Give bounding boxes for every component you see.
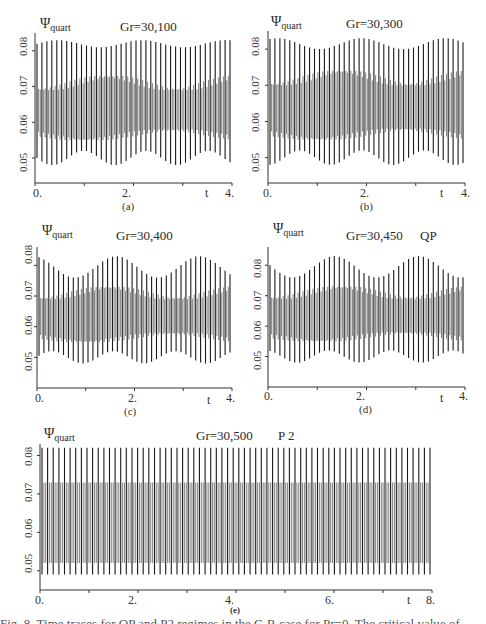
y-tick: 0.07 [251, 291, 263, 310]
panel-a: Ψquart Gr=30,100 0.05 0.06 0.07 0.08 0. … [0, 0, 243, 215]
y-tick: 0.07 [22, 483, 34, 502]
x-tick: 2. [128, 593, 137, 608]
chart-title: Gr=30,100 [120, 19, 177, 35]
panel-sublabel: (e) [230, 605, 240, 615]
chart-title: Gr=30,300 [346, 16, 403, 32]
y-axis-label: Ψquart [44, 426, 75, 443]
panel-sublabel: (d) [359, 403, 372, 415]
panel-e: Ψquart Gr=30,500 P 2 0.05 0.06 0.07 0.08… [0, 420, 486, 617]
x-tick: 0. [35, 593, 44, 608]
y-axis-label: Ψquart [40, 16, 71, 33]
y-tick: 0.07 [249, 76, 261, 95]
chart-plot-e [0, 420, 486, 617]
x-tick: 6. [325, 593, 334, 608]
panel-sublabel: (b) [360, 200, 373, 212]
y-tick: 0.08 [17, 37, 29, 56]
y-tick: 0.08 [22, 245, 34, 264]
chart-title: Gr=30,500 [196, 428, 253, 444]
x-tick: 2. [128, 391, 137, 406]
y-tick: 0.06 [251, 321, 263, 340]
panel-b: Ψquart Gr=30,300 0.05 0.06 0.07 0.08 0. … [243, 0, 486, 215]
y-tick: 0.06 [22, 316, 34, 335]
x-tick: 4. [461, 186, 470, 201]
panel-c: Ψquart Gr=30,400 0.05 0.06 0.07 0.08 0. … [0, 215, 243, 420]
x-axis-label: t [440, 186, 443, 201]
x-tick: 4. [225, 186, 234, 201]
x-axis-label: t [205, 186, 208, 201]
y-tick: 0.06 [249, 113, 261, 132]
figure-caption-partial: Fig. 8. Time traces for QP and P2 regime… [0, 617, 486, 624]
x-tick: 0. [263, 186, 272, 201]
y-tick: 0.08 [251, 259, 263, 278]
regime-label: QP [420, 228, 437, 244]
regime-label: P 2 [278, 428, 295, 444]
x-tick: 4. [459, 389, 468, 404]
x-tick: 0. [264, 389, 273, 404]
y-axis-label: Ψquart [271, 14, 302, 31]
chart-title: Gr=30,450 [346, 228, 403, 244]
x-tick: 4. [226, 391, 235, 406]
panel-sublabel: (c) [124, 405, 136, 417]
y-tick: 0.05 [22, 352, 34, 371]
y-tick: 0.05 [22, 554, 34, 573]
y-axis-label: Ψquart [273, 221, 304, 238]
y-tick: 0.05 [251, 351, 263, 370]
x-axis-label: t [440, 391, 443, 406]
chart-plot-b [243, 0, 486, 215]
x-tick: 2. [356, 389, 365, 404]
x-tick: 2. [360, 186, 369, 201]
panel-sublabel: (a) [122, 200, 134, 212]
chart-title: Gr=30,400 [116, 228, 173, 244]
y-tick: 0.07 [22, 281, 34, 300]
x-axis-label: t [407, 593, 410, 608]
x-tick: 0. [33, 186, 42, 201]
chart-plot-c [0, 215, 243, 420]
y-tick: 0.08 [22, 447, 34, 466]
y-tick: 0.06 [22, 519, 34, 538]
panel-d: Ψquart Gr=30,450 QP 0.05 0.06 0.07 0.08 … [243, 215, 486, 420]
x-tick: 0. [35, 391, 44, 406]
y-tick: 0.08 [249, 37, 261, 56]
y-tick: 0.05 [249, 153, 261, 172]
x-tick: 2. [122, 186, 131, 201]
x-tick: 8. [426, 593, 435, 608]
y-tick: 0.06 [17, 115, 29, 134]
x-axis-label: t [207, 393, 210, 408]
y-tick: 0.05 [17, 153, 29, 172]
y-tick: 0.07 [17, 76, 29, 95]
y-axis-label: Ψquart [42, 223, 73, 240]
